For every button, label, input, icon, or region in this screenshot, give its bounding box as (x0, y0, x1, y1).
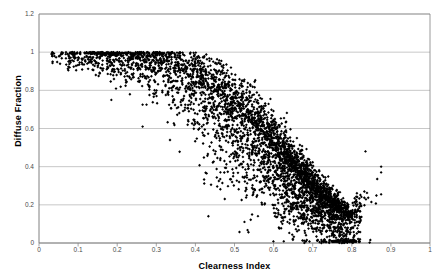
x-axis-title: Clearness Index (39, 261, 430, 271)
y-tick-label: 0.2 (12, 201, 34, 208)
x-tick-label: 0.2 (105, 246, 129, 253)
x-tick-label: 0.8 (340, 246, 364, 253)
x-tick-label: 0.3 (144, 246, 168, 253)
y-tick-label: 0 (12, 239, 34, 246)
x-tick-label: 0.6 (262, 246, 286, 253)
y-axis-title: Diffuse Fraction (13, 41, 23, 181)
y-tick-label: 1.2 (12, 10, 34, 17)
x-tick-label: 0.7 (301, 246, 325, 253)
scatter-chart: 00.10.20.30.40.50.60.70.80.91 00.20.40.6… (0, 0, 445, 279)
x-tick-label: 0.4 (183, 246, 207, 253)
x-tick-label: 0.5 (223, 246, 247, 253)
gridlines (39, 14, 430, 243)
x-tick-label: 0.9 (379, 246, 403, 253)
plot-canvas (0, 0, 445, 279)
x-tick-label: 1 (418, 246, 442, 253)
scatter-points (50, 51, 383, 245)
x-tick-label: 0.1 (66, 246, 90, 253)
x-tick-label: 0 (27, 246, 51, 253)
